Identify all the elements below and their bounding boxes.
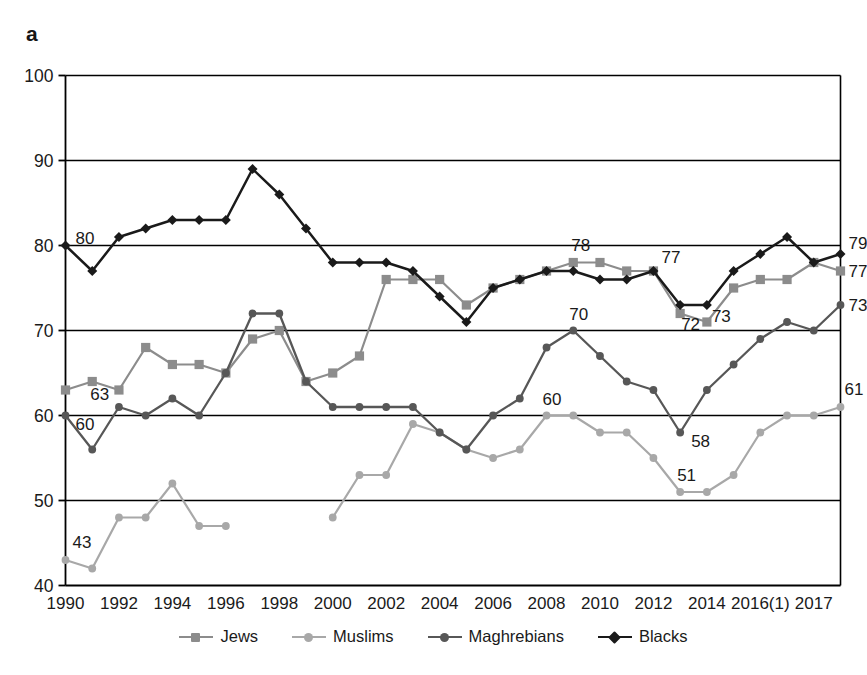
x-tick-label: 2006 [474, 594, 512, 613]
y-tick-label: 70 [34, 321, 54, 341]
data-point-marker [88, 446, 96, 454]
data-label: 80 [76, 229, 95, 248]
data-point-marker [195, 412, 203, 420]
data-point-marker [783, 412, 791, 420]
x-tick-label: 2010 [581, 594, 619, 613]
legend-marker-diamond-icon [608, 631, 621, 644]
x-tick-labels: 1990199219941996199820002002200420062008… [47, 594, 833, 613]
data-point-marker [569, 258, 578, 267]
data-point-marker [596, 352, 604, 360]
data-point-marker [382, 471, 390, 479]
data-point-marker [114, 385, 123, 394]
y-tick-label: 80 [34, 236, 54, 256]
data-point-marker [115, 403, 123, 411]
data-point-marker [837, 403, 845, 411]
data-point-marker [381, 258, 391, 268]
chart-legend: JewsMuslimsMaghrebiansBlacks [0, 627, 867, 646]
x-tick-label: 2014 [688, 594, 726, 613]
data-label: 63 [90, 385, 109, 404]
y-tick-label: 90 [34, 151, 54, 171]
legend-label: Muslims [333, 627, 394, 646]
data-point-marker [676, 488, 684, 496]
data-point-marker [569, 412, 577, 420]
data-point-marker [676, 429, 684, 437]
legend-item-muslims[interactable]: Muslims [292, 627, 394, 646]
data-point-marker [356, 403, 364, 411]
y-tick-label: 60 [34, 406, 54, 426]
data-point-marker [168, 395, 176, 403]
data-point-marker [837, 301, 845, 309]
data-point-marker [221, 215, 231, 225]
data-point-marker [810, 412, 818, 420]
data-point-marker [436, 429, 444, 437]
data-point-marker [622, 266, 631, 275]
data-point-marker [329, 514, 337, 522]
data-label: 58 [691, 432, 710, 451]
figure-panel-a: a 40506070809010019901992199419961998200… [0, 0, 867, 675]
x-tick-label: 2000 [314, 594, 352, 613]
x-tick-label: 2002 [367, 594, 405, 613]
data-point-marker [328, 368, 337, 377]
data-point-marker [568, 266, 578, 276]
data-point-marker [168, 360, 177, 369]
data-point-marker [195, 360, 204, 369]
legend-item-maghrebians[interactable]: Maghrebians [428, 627, 564, 646]
data-point-marker [543, 344, 551, 352]
legend-marker-circle-icon [440, 633, 449, 642]
legend-swatch-icon [428, 630, 462, 644]
data-point-marker [222, 522, 230, 530]
data-point-marker [596, 429, 604, 437]
data-point-marker [622, 275, 632, 285]
data-point-marker [408, 275, 417, 284]
data-point-marker [167, 215, 177, 225]
data-point-marker [703, 488, 711, 496]
data-point-marker [730, 361, 738, 369]
x-tick-label: 2016(1) [731, 594, 790, 613]
data-point-marker [382, 275, 391, 284]
data-point-marker [409, 403, 417, 411]
legend-swatch-icon [179, 630, 213, 644]
data-point-marker [355, 351, 364, 360]
y-tick-label: 100 [24, 66, 53, 86]
data-label: 73 [849, 296, 867, 315]
data-label: 61 [845, 380, 864, 399]
data-label: 73 [712, 307, 731, 326]
data-labels: 80636043787772737060585179777361 [73, 229, 867, 553]
y-tick-labels: 405060708090100 [24, 66, 53, 596]
data-label: 70 [569, 305, 588, 324]
legend-swatch-icon [292, 630, 326, 644]
data-point-marker [489, 412, 497, 420]
legend-item-jews[interactable]: Jews [179, 627, 258, 646]
line-chart: 4050607080901001990199219941996199820002… [0, 0, 867, 675]
data-point-marker [329, 403, 337, 411]
legend-item-blacks[interactable]: Blacks [598, 627, 688, 646]
data-point-marker [729, 283, 738, 292]
data-point-marker [168, 480, 176, 488]
data-point-marker [489, 454, 497, 462]
data-label: 72 [681, 315, 700, 334]
data-label: 51 [677, 466, 696, 485]
series-muslims [62, 403, 845, 572]
data-point-marker [382, 403, 390, 411]
data-point-marker [409, 420, 417, 428]
legend-label: Blacks [639, 627, 688, 646]
x-tick-label: 1990 [47, 594, 85, 613]
x-tick-label: 2004 [421, 594, 459, 613]
data-point-marker [569, 327, 577, 335]
x-tick-label: 2008 [528, 594, 566, 613]
data-point-marker [595, 275, 605, 285]
series-line [66, 305, 841, 450]
data-point-marker [248, 334, 257, 343]
data-point-marker [249, 310, 257, 318]
data-point-marker [195, 522, 203, 530]
y-gridlines [66, 76, 841, 501]
y-tick-label: 50 [34, 491, 54, 511]
data-point-marker [354, 258, 364, 268]
data-point-marker [810, 327, 818, 335]
data-point-marker [756, 335, 764, 343]
x-tick-label: 2017 [795, 594, 833, 613]
data-label: 60 [543, 390, 562, 409]
x-tick-label: 1992 [100, 594, 138, 613]
data-point-marker [543, 412, 551, 420]
data-point-marker [730, 471, 738, 479]
